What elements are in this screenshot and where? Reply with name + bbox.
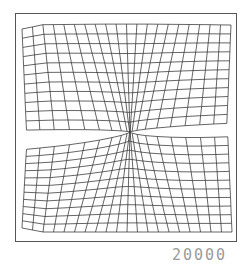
deformed-mesh <box>0 0 250 274</box>
iteration-label: 20000 <box>172 246 227 264</box>
